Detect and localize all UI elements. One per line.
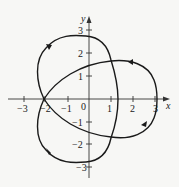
y-tick-label: 1 [78, 71, 83, 82]
x-tick-label: −3 [17, 103, 28, 114]
y-axis-label: y [80, 13, 86, 24]
origin-label: 0 [81, 101, 86, 112]
axes [8, 20, 166, 178]
y-tick-label: 2 [78, 48, 83, 59]
parametric-plot: −3 −2 −1 0 1 2 3 x 3 2 1 −1 −2 −3 y [0, 0, 179, 187]
y-tick-label: 3 [78, 25, 83, 36]
x-tick-label: 1 [107, 103, 112, 114]
x-tick-label: 2 [130, 103, 135, 114]
y-tick-label: −3 [76, 162, 87, 173]
y-axis-arrow-icon [87, 16, 92, 23]
direction-arrow-icon [128, 59, 133, 65]
y-tick-label: −2 [72, 139, 83, 150]
x-axis-label: x [165, 100, 171, 111]
x-tick-label: −1 [61, 103, 72, 114]
direction-arrow-icon [141, 121, 147, 127]
